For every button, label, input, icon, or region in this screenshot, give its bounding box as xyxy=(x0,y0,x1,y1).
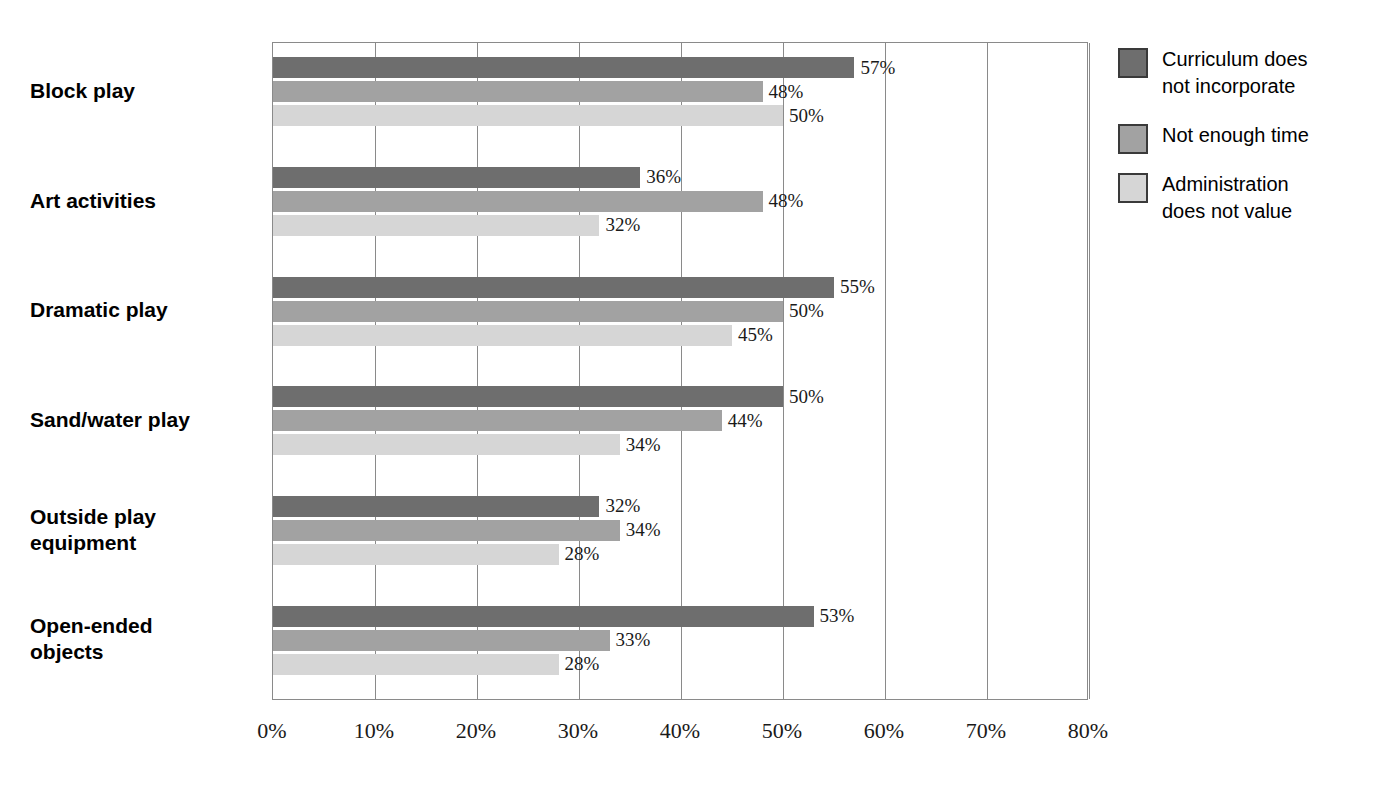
bar-value-label: 45% xyxy=(732,324,773,346)
legend-swatch-icon xyxy=(1118,124,1148,154)
bar-row: 55% xyxy=(273,277,1087,298)
bar-row: 48% xyxy=(273,81,1087,102)
bar-row: 32% xyxy=(273,215,1087,236)
category-axis-labels: Block playArt activitiesDramatic playSan… xyxy=(30,42,262,700)
bar-value-label: 53% xyxy=(814,605,855,627)
bar-value-label: 50% xyxy=(783,300,824,322)
bar-row: 34% xyxy=(273,520,1087,541)
bar-value-label: 28% xyxy=(559,543,600,565)
legend-label: Not enough time xyxy=(1162,122,1309,149)
bar-row: 28% xyxy=(273,544,1087,565)
bar[interactable] xyxy=(273,654,559,675)
legend-item[interactable]: Administration does not value xyxy=(1118,171,1292,225)
bar-value-label: 55% xyxy=(834,276,875,298)
bar-value-label: 50% xyxy=(783,386,824,408)
bar[interactable] xyxy=(273,57,854,78)
bar[interactable] xyxy=(273,301,783,322)
category-label: Open-ended objects xyxy=(30,613,254,665)
bar-row: 50% xyxy=(273,105,1087,126)
legend-swatch-icon xyxy=(1118,173,1148,203)
bar-value-label: 32% xyxy=(599,495,640,517)
bar-value-label: 48% xyxy=(763,81,804,103)
bar-value-label: 33% xyxy=(610,629,651,651)
category-label: Block play xyxy=(30,78,254,104)
category-label: Sand/water play xyxy=(30,407,254,433)
bar-row: 45% xyxy=(273,325,1087,346)
bar-row: 48% xyxy=(273,191,1087,212)
bar-row: 32% xyxy=(273,496,1087,517)
bar[interactable] xyxy=(273,630,610,651)
bar-value-label: 36% xyxy=(640,166,681,188)
legend-label: Administration does not value xyxy=(1162,171,1292,225)
bar-value-label: 50% xyxy=(783,105,824,127)
bar-row: 34% xyxy=(273,434,1087,455)
x-tick-label: 40% xyxy=(660,718,700,744)
bar-row: 53% xyxy=(273,606,1087,627)
bar-row: 44% xyxy=(273,410,1087,431)
bar[interactable] xyxy=(273,277,834,298)
x-tick-label: 50% xyxy=(762,718,802,744)
x-tick-label: 70% xyxy=(966,718,1006,744)
legend-item[interactable]: Curriculum does not incorporate xyxy=(1118,46,1308,100)
bar-group: 55%50%45% xyxy=(273,262,1087,372)
bar-row: 57% xyxy=(273,57,1087,78)
bar[interactable] xyxy=(273,81,763,102)
bar-value-label: 44% xyxy=(722,410,763,432)
category-label: Outside play equipment xyxy=(30,504,254,556)
bar-group: 36%48%32% xyxy=(273,153,1087,263)
bar[interactable] xyxy=(273,434,620,455)
x-tick-label: 30% xyxy=(558,718,598,744)
x-tick-label: 60% xyxy=(864,718,904,744)
legend-swatch-icon xyxy=(1118,48,1148,78)
bar-value-label: 34% xyxy=(620,519,661,541)
category-label: Dramatic play xyxy=(30,297,254,323)
bar-value-label: 48% xyxy=(763,190,804,212)
plot-area: 57%48%50%36%48%32%55%50%45%50%44%34%32%3… xyxy=(272,42,1088,700)
bar[interactable] xyxy=(273,167,640,188)
legend-item[interactable]: Not enough time xyxy=(1118,122,1309,154)
x-tick-label: 10% xyxy=(354,718,394,744)
bar[interactable] xyxy=(273,544,559,565)
bar[interactable] xyxy=(273,325,732,346)
bar[interactable] xyxy=(273,105,783,126)
bar[interactable] xyxy=(273,410,722,431)
bar-row: 50% xyxy=(273,301,1087,322)
x-tick-label: 20% xyxy=(456,718,496,744)
bar[interactable] xyxy=(273,520,620,541)
bar-value-label: 32% xyxy=(599,214,640,236)
bar-chart: Block playArt activitiesDramatic playSan… xyxy=(0,0,1394,797)
bar[interactable] xyxy=(273,496,599,517)
bar-row: 50% xyxy=(273,386,1087,407)
bar-value-label: 28% xyxy=(559,653,600,675)
category-label: Art activities xyxy=(30,188,254,214)
bar-row: 33% xyxy=(273,630,1087,651)
bar-row: 36% xyxy=(273,167,1087,188)
bar-row: 28% xyxy=(273,654,1087,675)
bar[interactable] xyxy=(273,606,814,627)
x-tick-label: 0% xyxy=(257,718,286,744)
bar-group: 32%34%28% xyxy=(273,482,1087,592)
bar-value-label: 34% xyxy=(620,434,661,456)
bar[interactable] xyxy=(273,386,783,407)
x-tick-label: 80% xyxy=(1068,718,1108,744)
legend-label: Curriculum does not incorporate xyxy=(1162,46,1308,100)
bar-group: 57%48%50% xyxy=(273,43,1087,153)
bar-group: 50%44%34% xyxy=(273,372,1087,482)
x-axis: 0%10%20%30%40%50%60%70%80% xyxy=(272,700,1088,760)
bar[interactable] xyxy=(273,215,599,236)
bar-value-label: 57% xyxy=(854,57,895,79)
bar-group: 53%33%28% xyxy=(273,591,1087,701)
gridline-80pct xyxy=(1089,43,1090,699)
bar[interactable] xyxy=(273,191,763,212)
